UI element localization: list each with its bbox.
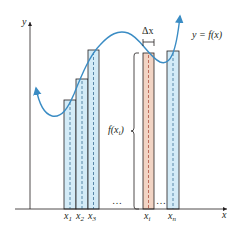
ellipsis-left: … <box>112 195 122 206</box>
height-label: f(xi) <box>108 125 124 137</box>
curve-label: y = f(x) <box>192 30 222 40</box>
delta-x-label: Δx <box>142 26 153 36</box>
tick-label-x3: x3 <box>88 211 96 223</box>
function-curve <box>36 88 52 116</box>
riemann-sum-figure: … … y x y = f(x) Δx f(xi) x1 x2 x3 xi xn <box>0 0 233 229</box>
height-brace <box>131 53 139 209</box>
delta-x-text: Δx <box>142 25 153 36</box>
y-axis-label: y <box>22 17 26 27</box>
tick-label-x1: x1 <box>64 211 72 223</box>
ellipsis-right: … <box>156 195 166 206</box>
x-axis-label: x <box>222 210 226 220</box>
tick-label-xi: xi <box>144 211 150 223</box>
delta-x-bracket <box>143 39 154 46</box>
tick-label-xn: xn <box>168 211 176 223</box>
tick-label-x2: x2 <box>76 211 84 223</box>
